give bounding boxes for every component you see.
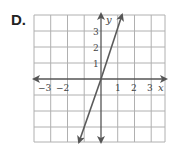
x-tick-3: 3 (147, 83, 153, 93)
x-tick-2: 2 (131, 83, 137, 93)
x-tick-neg2: −2 (56, 83, 69, 93)
x-tick-1: 1 (115, 83, 121, 93)
axes (34, 14, 166, 142)
y-tick-1: 1 (93, 59, 99, 69)
y-tick-2: 2 (93, 43, 99, 53)
y-axis-label: y (105, 14, 112, 25)
coordinate-plane: −3 −2 1 2 3 x 1 2 3 y (0, 0, 173, 150)
x-tick-neg3: −3 (38, 83, 52, 93)
x-axis-label: x (158, 82, 164, 93)
y-tick-3: 3 (93, 27, 99, 37)
